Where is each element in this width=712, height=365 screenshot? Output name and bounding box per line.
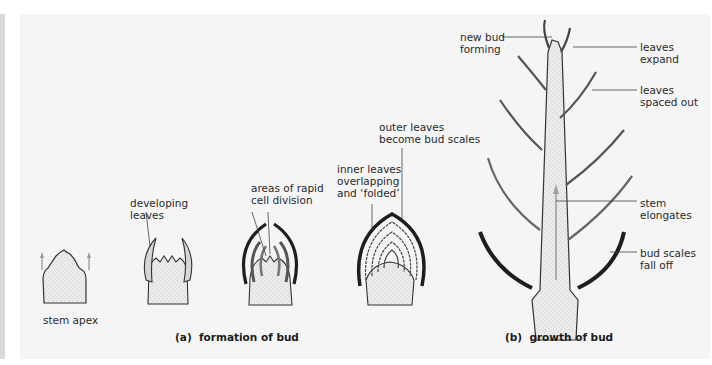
stem-elongates-label: stem elongates (640, 197, 692, 221)
new-bud-forming-label: new bud forming (460, 31, 505, 55)
developing-leaves-label: developing leaves (130, 197, 188, 221)
bud-growth-drawing (480, 20, 637, 340)
developing-leaves-drawing (144, 212, 191, 304)
leaves-spaced-out-label: leaves spaced out (640, 84, 698, 108)
stem-apex-drawing (40, 250, 91, 303)
inner-leaves-label: inner leaves overlapping and ‘folded’ (337, 163, 401, 199)
stem-apex-label: stem apex (43, 314, 98, 326)
leaves-expand-label: leaves expand (640, 41, 679, 65)
bud-scales-fall-off-label: bud scales fall off (640, 247, 696, 271)
outer-leaves-label: outer leaves become bud scales (379, 121, 480, 145)
rapid-cell-division-label: areas of rapid cell division (251, 182, 324, 206)
rapid-cell-division-drawing (244, 212, 297, 305)
panel-b-caption: (b) growth of bud (505, 331, 613, 343)
panel-a-caption: (a) formation of bud (175, 331, 299, 343)
